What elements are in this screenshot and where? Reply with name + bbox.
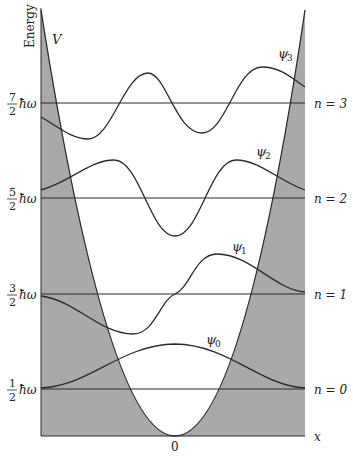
- x-axis-label: x: [314, 430, 321, 444]
- svg-text:2: 2: [9, 391, 16, 404]
- level-label-n2: n = 2: [314, 192, 347, 206]
- level-label-n1: n = 1: [314, 288, 347, 302]
- psi-label-0: ψ 0: [206, 332, 221, 349]
- energy-label-n0: 1 2 ħω: [7, 377, 37, 404]
- origin-label: 0: [171, 440, 179, 454]
- svg-text:ħω: ħω: [19, 288, 37, 302]
- svg-text:2: 2: [265, 151, 271, 161]
- harmonic-oscillator-diagram: Energy V x 0 7 2 ħω 5 2 ħω 3 2 ħω 1 2 ħω…: [0, 0, 353, 459]
- level-label-n0: n = 0: [314, 383, 347, 397]
- potential-label: V: [52, 32, 63, 47]
- svg-text:2: 2: [9, 296, 16, 309]
- svg-text:7: 7: [9, 91, 16, 104]
- svg-text:0: 0: [215, 339, 221, 349]
- svg-text:2: 2: [9, 105, 16, 118]
- energy-label-n3: 7 2 ħω: [7, 91, 37, 118]
- psi-label-1: ψ 1: [232, 239, 247, 256]
- y-axis-label: Energy: [23, 4, 37, 48]
- svg-text:ħω: ħω: [19, 97, 37, 111]
- forbidden-region-left: [41, 10, 175, 436]
- level-label-n3: n = 3: [314, 97, 347, 111]
- psi-label-3: ψ 3: [278, 46, 293, 63]
- svg-text:1: 1: [241, 246, 247, 256]
- svg-text:1: 1: [9, 377, 16, 390]
- svg-text:5: 5: [9, 186, 16, 199]
- svg-text:ħω: ħω: [19, 383, 37, 397]
- svg-text:ħω: ħω: [19, 192, 37, 206]
- psi-label-2: ψ 2: [256, 144, 271, 161]
- svg-text:3: 3: [9, 282, 16, 295]
- energy-label-n1: 3 2 ħω: [7, 282, 37, 309]
- svg-text:3: 3: [287, 53, 293, 63]
- svg-text:2: 2: [9, 200, 16, 213]
- energy-label-n2: 5 2 ħω: [7, 186, 37, 213]
